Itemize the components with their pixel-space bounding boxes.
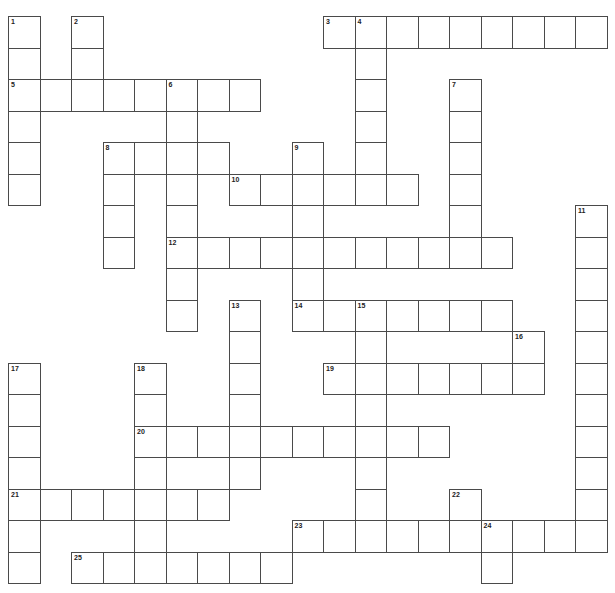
crossword-cell[interactable]: 9 [292, 142, 325, 175]
crossword-cell[interactable]: 7 [449, 79, 482, 112]
crossword-cell[interactable] [449, 300, 482, 333]
crossword-cell[interactable] [355, 174, 388, 207]
crossword-cell[interactable] [575, 237, 608, 270]
crossword-cell[interactable]: 21 [8, 489, 41, 522]
crossword-cell[interactable] [292, 174, 325, 207]
crossword-cell[interactable] [575, 457, 608, 490]
crossword-cell[interactable] [355, 394, 388, 427]
crossword-cell[interactable] [418, 426, 451, 459]
crossword-cell[interactable] [8, 142, 41, 175]
crossword-cell[interactable] [8, 552, 41, 585]
crossword-cell[interactable] [481, 16, 514, 49]
crossword-cell[interactable] [323, 426, 356, 459]
crossword-cell[interactable] [166, 268, 199, 301]
crossword-cell[interactable] [355, 489, 388, 522]
crossword-cell[interactable] [418, 300, 451, 333]
crossword-cell[interactable] [103, 79, 136, 112]
crossword-cell[interactable] [134, 142, 167, 175]
crossword-cell[interactable] [229, 331, 262, 364]
crossword-cell[interactable] [449, 520, 482, 553]
crossword-cell[interactable] [260, 552, 293, 585]
crossword-cell[interactable] [197, 237, 230, 270]
crossword-cell[interactable] [575, 489, 608, 522]
crossword-cell[interactable] [71, 489, 104, 522]
crossword-cell[interactable] [512, 363, 545, 396]
crossword-cell[interactable]: 19 [323, 363, 356, 396]
crossword-cell[interactable] [197, 552, 230, 585]
crossword-cell[interactable] [103, 174, 136, 207]
crossword-cell[interactable] [260, 426, 293, 459]
crossword-cell[interactable] [575, 16, 608, 49]
crossword-cell[interactable] [575, 331, 608, 364]
crossword-cell[interactable]: 22 [449, 489, 482, 522]
crossword-cell[interactable] [481, 363, 514, 396]
crossword-cell[interactable] [449, 111, 482, 144]
crossword-cell[interactable] [71, 48, 104, 81]
crossword-cell[interactable] [8, 394, 41, 427]
crossword-cell[interactable] [103, 237, 136, 270]
crossword-cell[interactable]: 25 [71, 552, 104, 585]
crossword-cell[interactable]: 15 [355, 300, 388, 333]
crossword-cell[interactable] [134, 394, 167, 427]
crossword-cell[interactable] [166, 426, 199, 459]
crossword-cell[interactable] [355, 48, 388, 81]
crossword-cell[interactable] [323, 174, 356, 207]
crossword-cell[interactable] [386, 520, 419, 553]
crossword-cell[interactable] [575, 520, 608, 553]
crossword-cell[interactable] [166, 489, 199, 522]
crossword-cell[interactable] [260, 174, 293, 207]
crossword-cell[interactable] [40, 79, 73, 112]
crossword-cell[interactable]: 12 [166, 237, 199, 270]
crossword-cell[interactable] [134, 552, 167, 585]
crossword-cell[interactable] [355, 142, 388, 175]
crossword-cell[interactable] [292, 237, 325, 270]
crossword-cell[interactable] [166, 300, 199, 333]
crossword-cell[interactable]: 14 [292, 300, 325, 333]
crossword-cell[interactable] [544, 16, 577, 49]
crossword-cell[interactable] [386, 237, 419, 270]
crossword-cell[interactable]: 20 [134, 426, 167, 459]
crossword-cell[interactable] [229, 79, 262, 112]
crossword-cell[interactable] [229, 426, 262, 459]
crossword-cell[interactable] [166, 142, 199, 175]
crossword-cell[interactable] [418, 363, 451, 396]
crossword-cell[interactable] [40, 489, 73, 522]
crossword-cell[interactable]: 24 [481, 520, 514, 553]
crossword-cell[interactable] [386, 363, 419, 396]
crossword-cell[interactable] [449, 205, 482, 238]
crossword-cell[interactable] [544, 520, 577, 553]
crossword-cell[interactable] [134, 489, 167, 522]
crossword-cell[interactable] [292, 268, 325, 301]
crossword-cell[interactable] [197, 489, 230, 522]
crossword-cell[interactable] [229, 363, 262, 396]
crossword-cell[interactable] [481, 300, 514, 333]
crossword-cell[interactable] [8, 457, 41, 490]
crossword-cell[interactable] [8, 111, 41, 144]
crossword-cell[interactable] [229, 457, 262, 490]
crossword-cell[interactable] [386, 174, 419, 207]
crossword-cell[interactable] [292, 426, 325, 459]
crossword-cell[interactable] [8, 426, 41, 459]
crossword-cell[interactable] [166, 111, 199, 144]
crossword-cell[interactable] [481, 552, 514, 585]
crossword-cell[interactable] [575, 426, 608, 459]
crossword-cell[interactable] [166, 552, 199, 585]
crossword-cell[interactable] [229, 394, 262, 427]
crossword-cell[interactable]: 8 [103, 142, 136, 175]
crossword-cell[interactable] [355, 363, 388, 396]
crossword-cell[interactable] [8, 48, 41, 81]
crossword-cell[interactable] [355, 520, 388, 553]
crossword-cell[interactable] [512, 16, 545, 49]
crossword-cell[interactable] [197, 426, 230, 459]
crossword-cell[interactable]: 16 [512, 331, 545, 364]
crossword-cell[interactable] [386, 16, 419, 49]
crossword-cell[interactable] [166, 205, 199, 238]
crossword-cell[interactable] [481, 237, 514, 270]
crossword-cell[interactable] [323, 520, 356, 553]
crossword-cell[interactable] [292, 205, 325, 238]
crossword-cell[interactable] [386, 300, 419, 333]
crossword-cell[interactable] [134, 79, 167, 112]
crossword-cell[interactable] [512, 520, 545, 553]
crossword-cell[interactable] [355, 457, 388, 490]
crossword-cell[interactable] [260, 237, 293, 270]
